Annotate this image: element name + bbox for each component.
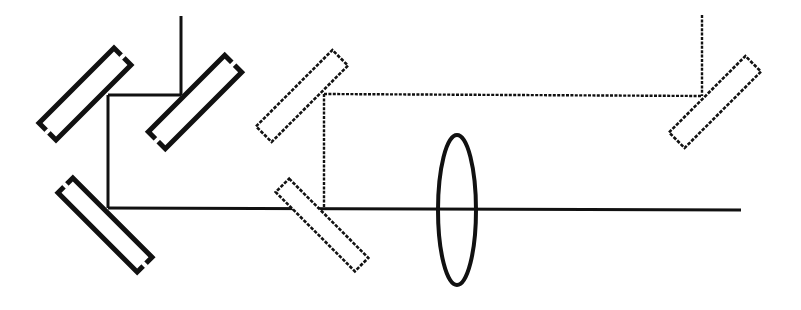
mirror-notch	[64, 184, 67, 187]
mirror-notch	[143, 263, 146, 266]
optical-diagram-canvas	[0, 0, 801, 310]
mirror-notch	[155, 139, 158, 142]
diagram-background	[0, 0, 801, 310]
mirror-notch	[46, 130, 49, 133]
mirror-notch	[232, 62, 235, 65]
mirror-notch	[121, 55, 124, 58]
optical-diagram	[0, 0, 801, 310]
beam-main-horizontal	[108, 208, 741, 210]
